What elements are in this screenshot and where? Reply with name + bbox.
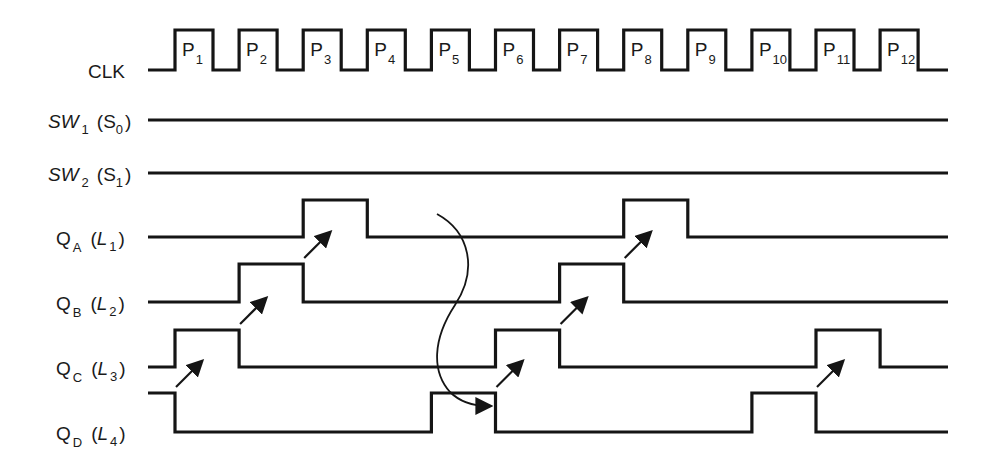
shift-arrow-icon: [176, 362, 201, 387]
clock-pulse-labels: P1P2P3P4P5P6P7P8P9P10P11P12: [182, 39, 915, 67]
signal-labels: CLK SW1(S0) SW2(S1) QA(L1) QB(L2) QC(L3)…: [48, 61, 131, 450]
pulse-label: P11: [823, 39, 850, 67]
recirculate-arrow-icon: [437, 214, 488, 406]
pulse-label: P9: [695, 39, 716, 67]
label-clk: CLK: [88, 61, 125, 82]
qd-waveform: [148, 393, 948, 432]
pulse-label: P1: [182, 39, 203, 67]
label-sw2: SW2(S1): [48, 164, 131, 190]
pulse-label: P2: [246, 39, 267, 67]
pulse-label: P5: [438, 39, 459, 67]
shift-arrow-icon: [497, 362, 522, 387]
shift-arrow-icon: [625, 233, 650, 258]
shift-arrow-icon: [817, 362, 842, 387]
shift-arrow-icon: [561, 299, 586, 324]
qa-waveform: [148, 200, 948, 237]
qc-waveform: [148, 330, 948, 367]
qb-waveform: [148, 264, 948, 302]
timing-diagram: CLK SW1(S0) SW2(S1) QA(L1) QB(L2) QC(L3)…: [0, 0, 993, 472]
shift-arrow-icon: [240, 299, 265, 324]
shift-arrow-icon: [304, 233, 329, 258]
pulse-label: P7: [567, 39, 588, 67]
label-sw1: SW1(S0): [48, 111, 131, 137]
shift-arrows: [176, 233, 842, 387]
pulse-label: P3: [310, 39, 331, 67]
label-qb: QB(L2): [56, 293, 125, 320]
pulse-label: P12: [887, 39, 915, 67]
label-qd: QD(L4): [56, 423, 126, 450]
pulse-label: P4: [374, 39, 395, 67]
pulse-label: P8: [631, 39, 652, 67]
label-qa: QA(L1): [56, 228, 125, 255]
pulse-label: P10: [759, 39, 787, 67]
label-qc: QC(L3): [56, 358, 126, 385]
pulse-label: P6: [503, 39, 524, 67]
